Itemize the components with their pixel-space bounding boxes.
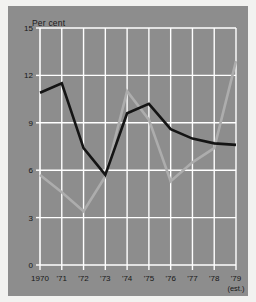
x-axis-tick-label: '78 <box>209 274 220 283</box>
x-axis-tick-label: '79 <box>231 274 242 283</box>
y-axis-tick-label: 12 <box>24 71 33 80</box>
y-axis-tick-label: 0 <box>29 261 34 270</box>
x-axis-tick-label: '77 <box>187 274 198 283</box>
x-axis-tick-label: '74 <box>122 274 133 283</box>
series-line-gray-series <box>40 61 236 211</box>
x-axis-tick-label: '75 <box>144 274 155 283</box>
plot-area: Per cent 036912151970'71'72'73'74'75'76'… <box>8 6 248 296</box>
y-axis-tick-label: 3 <box>29 214 34 223</box>
chart-figure: Per cent 036912151970'71'72'73'74'75'76'… <box>0 0 256 302</box>
x-axis-tick-label: '73 <box>100 274 111 283</box>
x-axis-tick-label: '76 <box>165 274 176 283</box>
y-axis-tick-label: 9 <box>29 119 34 128</box>
y-axis-tick-label: 15 <box>24 24 33 33</box>
line-chart-svg: 036912151970'71'72'73'74'75'76'77'78'79(… <box>8 6 248 296</box>
x-axis-tick-label: '72 <box>78 274 89 283</box>
series-line-black-series <box>40 83 236 175</box>
chart-panel: Per cent 036912151970'71'72'73'74'75'76'… <box>8 6 248 296</box>
x-axis-tick-label: '71 <box>57 274 68 283</box>
x-axis-tick-label: 1970 <box>31 274 49 283</box>
y-axis-tick-label: 6 <box>29 166 34 175</box>
x-axis-sublabel: (est.) <box>227 284 245 293</box>
